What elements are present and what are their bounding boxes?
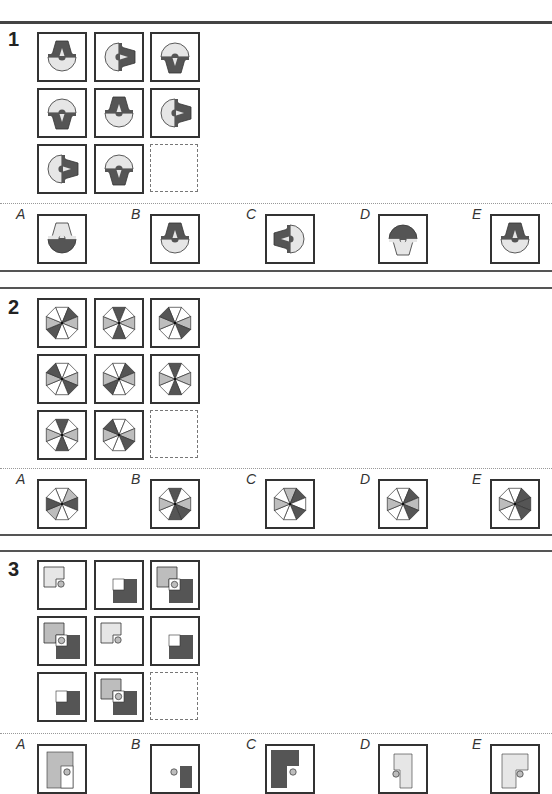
divider [0, 270, 552, 272]
matrix-cell [150, 298, 200, 348]
top-rule [0, 21, 552, 24]
option-label: A [16, 471, 25, 487]
matrix-cell [150, 32, 200, 82]
option-label: E [472, 471, 481, 487]
option-label: B [131, 471, 140, 487]
matrix-cell [37, 144, 87, 194]
figure-icon [152, 90, 198, 136]
figure-icon [39, 90, 85, 136]
figure-icon [39, 674, 85, 720]
matrix-cell [94, 88, 144, 138]
divider [0, 733, 552, 734]
figure-icon [152, 481, 198, 527]
figure-icon [39, 34, 85, 80]
answer-option-b[interactable] [150, 479, 200, 529]
matrix-cell [37, 88, 87, 138]
figure-icon [39, 216, 85, 262]
matrix-cell [37, 560, 87, 610]
answer-option-d[interactable] [378, 479, 428, 529]
answer-option-c[interactable] [265, 479, 315, 529]
question-number: 3 [8, 558, 19, 581]
figure-icon [39, 746, 85, 792]
figure-icon [39, 562, 85, 608]
answer-option-a[interactable] [37, 214, 87, 264]
matrix-cell [94, 616, 144, 666]
option-label: E [472, 736, 481, 752]
figure-icon [492, 746, 538, 792]
figure-icon [39, 412, 85, 458]
matrix-cell [150, 354, 200, 404]
figure-icon [267, 481, 313, 527]
matrix-cell [37, 616, 87, 666]
answer-option-a[interactable] [37, 479, 87, 529]
figure-icon [96, 562, 142, 608]
figure-icon [39, 618, 85, 664]
matrix-cell [150, 88, 200, 138]
matrix-cell [94, 32, 144, 82]
figure-icon [380, 216, 426, 262]
answer-option-e[interactable] [490, 214, 540, 264]
figure-icon [39, 356, 85, 402]
answer-option-e[interactable] [490, 479, 540, 529]
matrix-cell [94, 354, 144, 404]
figure-icon [267, 746, 313, 792]
missing-cell [150, 672, 198, 720]
figure-icon [39, 146, 85, 192]
matrix-cell [94, 410, 144, 460]
figure-icon [96, 356, 142, 402]
matrix-cell [150, 560, 200, 610]
divider [0, 287, 552, 289]
option-label: B [131, 206, 140, 222]
figure-icon [152, 618, 198, 664]
figure-icon [96, 674, 142, 720]
figure-icon [96, 34, 142, 80]
figure-icon [96, 146, 142, 192]
divider [0, 203, 552, 204]
answer-option-d[interactable] [378, 744, 428, 794]
missing-cell [150, 410, 198, 458]
figure-icon [492, 216, 538, 262]
figure-icon [96, 300, 142, 346]
figure-icon [96, 412, 142, 458]
answer-option-a[interactable] [37, 744, 87, 794]
divider [0, 550, 552, 552]
option-label: D [360, 736, 370, 752]
option-label: C [246, 471, 256, 487]
figure-icon [267, 216, 313, 262]
figure-icon [39, 300, 85, 346]
option-label: B [131, 736, 140, 752]
matrix-cell [94, 560, 144, 610]
matrix-cell [94, 298, 144, 348]
figure-icon [96, 618, 142, 664]
option-label: C [246, 206, 256, 222]
missing-cell [150, 144, 198, 192]
figure-icon [152, 562, 198, 608]
answer-option-e[interactable] [490, 744, 540, 794]
divider [0, 534, 552, 536]
matrix-cell [37, 32, 87, 82]
matrix-cell [37, 672, 87, 722]
answer-option-d[interactable] [378, 214, 428, 264]
matrix-cell [37, 410, 87, 460]
question-number: 1 [8, 28, 19, 51]
option-label: D [360, 206, 370, 222]
option-label: C [246, 736, 256, 752]
figure-icon [152, 34, 198, 80]
matrix-cell [94, 144, 144, 194]
figure-icon [380, 481, 426, 527]
matrix-cell [94, 672, 144, 722]
figure-icon [492, 481, 538, 527]
option-label: A [16, 736, 25, 752]
figure-icon [152, 300, 198, 346]
answer-option-b[interactable] [150, 214, 200, 264]
option-label: D [360, 471, 370, 487]
answer-option-c[interactable] [265, 744, 315, 794]
figure-icon [39, 481, 85, 527]
figure-icon [96, 90, 142, 136]
figure-icon [152, 216, 198, 262]
matrix-cell [150, 616, 200, 666]
matrix-cell [37, 298, 87, 348]
answer-option-c[interactable] [265, 214, 315, 264]
answer-option-b[interactable] [150, 744, 200, 794]
matrix-cell [37, 354, 87, 404]
